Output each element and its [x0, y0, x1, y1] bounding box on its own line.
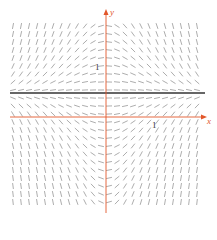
slope-segment: [187, 104, 191, 108]
slope-segment: [36, 159, 37, 165]
slope-segment: [82, 81, 88, 82]
slope-segment: [44, 55, 47, 60]
slope-segments: [10, 23, 200, 205]
slope-segment: [164, 175, 165, 181]
slope-segment: [188, 63, 191, 68]
slope-segment: [90, 57, 96, 59]
slope-segment: [28, 55, 30, 61]
slope-segment: [172, 183, 173, 189]
slope-segment: [156, 167, 158, 173]
slope-segment: [19, 111, 22, 116]
slope-segment: [106, 154, 112, 155]
slope-segment: [76, 175, 79, 180]
slope-segment: [171, 72, 175, 76]
slope-segment: [180, 63, 183, 68]
x-axis-label: x: [207, 117, 211, 126]
slope-segment: [164, 55, 167, 60]
slope-segment: [139, 128, 143, 132]
slope-segment: [83, 160, 87, 165]
slope-segment: [123, 24, 127, 28]
slope-segment: [148, 191, 150, 197]
slope-segment: [28, 31, 29, 37]
slope-segment: [106, 42, 112, 43]
slope-segment: [171, 104, 176, 108]
slope-segment: [170, 97, 176, 99]
slope-segment: [27, 72, 31, 77]
slope-segment: [76, 183, 78, 189]
slope-segment: [156, 47, 159, 52]
slope-segment: [180, 55, 182, 61]
slope-segment: [156, 199, 157, 205]
slope-segment: [114, 106, 120, 107]
slope-segment: [179, 80, 184, 84]
slope-segment: [21, 191, 22, 197]
x-tick-label-1: 1: [152, 121, 157, 130]
slope-segment: [60, 31, 62, 37]
slope-segment: [13, 175, 14, 181]
slope-segment: [52, 175, 53, 181]
slope-segment: [37, 199, 38, 205]
slope-segment: [189, 191, 190, 197]
slope-segment: [115, 192, 119, 196]
slope-segment: [28, 63, 31, 68]
slope-segment: [12, 159, 13, 165]
slope-segment: [74, 98, 80, 99]
slope-segment: [19, 80, 24, 84]
slope-segment: [106, 130, 112, 131]
slope-segment: [115, 176, 120, 180]
slope-segment: [66, 105, 72, 107]
slope-segment: [75, 128, 79, 132]
slope-segment: [130, 73, 135, 75]
slope-segment: [74, 73, 79, 76]
slope-segment: [98, 145, 104, 146]
slope-segment: [188, 119, 191, 124]
slope-segment: [29, 199, 30, 205]
slope-segment: [146, 90, 152, 91]
slope-segment: [114, 145, 119, 148]
slope-segment: [67, 39, 70, 44]
slope-segment: [148, 31, 150, 36]
slope-segment: [35, 72, 39, 77]
slope-segment: [147, 64, 151, 68]
slope-segment: [27, 112, 30, 117]
slope-segment: [172, 127, 175, 132]
slope-segment: [188, 135, 190, 141]
slope-segment: [156, 175, 158, 181]
slope-segment: [28, 175, 29, 181]
slope-segment: [163, 64, 167, 69]
slope-segment: [20, 39, 22, 45]
slope-segment: [123, 191, 126, 196]
slope-segment: [140, 191, 142, 197]
slope-segment: [114, 160, 119, 163]
slope-segment: [131, 144, 135, 149]
slope-segment: [106, 161, 112, 162]
slope-segment: [188, 151, 189, 157]
slope-segment: [20, 63, 23, 68]
slope-segment: [98, 185, 104, 187]
slope-segment: [75, 23, 78, 28]
slope-segment: [106, 185, 112, 186]
slope-segment: [75, 136, 79, 141]
slope-segment: [162, 97, 168, 98]
slope-segment: [66, 72, 71, 75]
slope-segment: [138, 73, 143, 76]
slope-segment: [188, 127, 190, 133]
slope-segment: [28, 135, 30, 141]
slope-segment: [20, 31, 21, 37]
slope-segment: [44, 183, 45, 189]
slope-segment: [181, 199, 182, 205]
slope-segment: [195, 80, 200, 84]
slope-segment: [196, 47, 198, 53]
slope-segment: [90, 41, 95, 44]
slope-segment: [28, 23, 29, 29]
slope-segment: [147, 56, 151, 61]
slope-segment: [76, 191, 78, 197]
slope-segment: [114, 73, 120, 74]
slope-segment: [29, 191, 30, 197]
slope-segment: [21, 175, 22, 181]
slope-segment: [91, 152, 96, 155]
slope-segment: [186, 97, 192, 99]
slope-segment: [50, 81, 55, 84]
slope-segment: [98, 161, 104, 163]
slope-segment: [42, 80, 47, 83]
